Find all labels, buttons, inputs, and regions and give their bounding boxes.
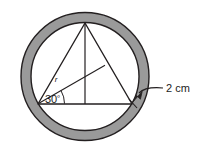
figure-canvas: r 30º 2 cm: [0, 0, 201, 151]
angle-value: 30: [45, 93, 57, 105]
ring-width-label: 2 cm: [166, 82, 190, 94]
degree-symbol: º: [57, 94, 60, 101]
radius-label: r: [55, 75, 58, 84]
geometry-figure: r 30º 2 cm: [0, 0, 201, 151]
